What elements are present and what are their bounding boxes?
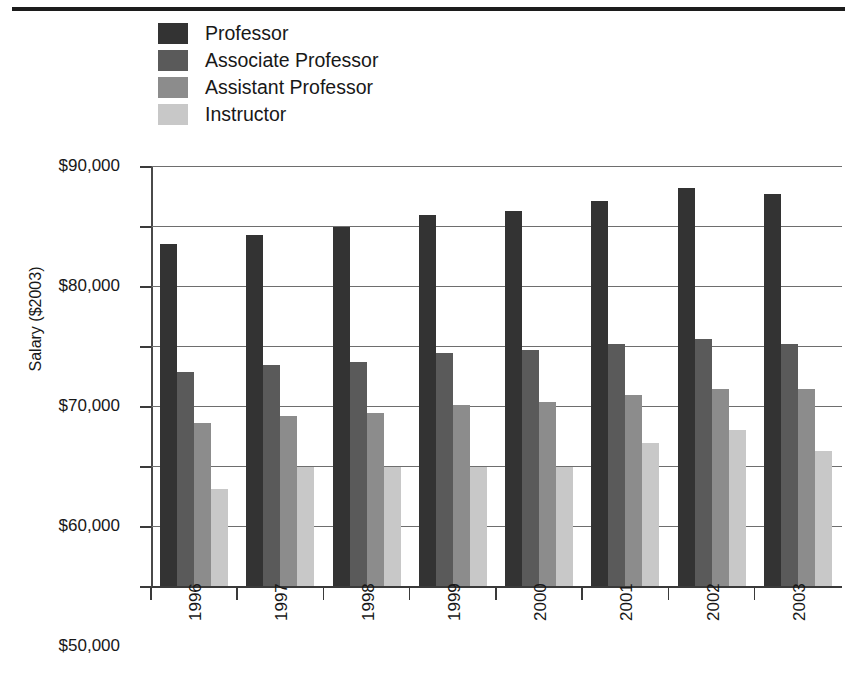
- y-axis-tick-label: $50,000: [59, 636, 120, 656]
- x-axis-tick-label: 2003: [790, 583, 810, 621]
- bar: [350, 362, 367, 586]
- bar: [608, 344, 625, 586]
- legend-swatch-icon: [158, 104, 188, 125]
- y-axis-tick-label: $60,000: [59, 516, 120, 536]
- legend-item-label: Professor: [205, 24, 288, 44]
- legend-item-label: Instructor: [205, 105, 286, 125]
- legend-item: Professor: [158, 20, 578, 47]
- x-axis-tick-mark: [668, 587, 670, 600]
- bar: [177, 372, 194, 586]
- bar: [815, 451, 832, 586]
- x-axis-tick-label: 1999: [445, 583, 465, 621]
- x-axis-tick-label: 2002: [704, 583, 724, 621]
- bar: [505, 211, 522, 586]
- legend-item: Instructor: [158, 101, 578, 128]
- bar: [211, 489, 228, 586]
- legend-swatch-icon: [158, 77, 188, 98]
- x-axis-tick-mark: [409, 587, 411, 600]
- top-divider-rule: [12, 7, 845, 11]
- x-axis-tick-label: 2000: [531, 583, 551, 621]
- bar: [436, 353, 453, 586]
- bar: [556, 467, 573, 586]
- legend-item: Assistant Professor: [158, 74, 578, 101]
- legend-item-label: Assistant Professor: [205, 78, 373, 98]
- x-axis-tick-mark: [495, 587, 497, 600]
- y-axis-tick-mark: $70,000: [140, 286, 151, 288]
- bar: [539, 402, 556, 586]
- bars-group: [152, 166, 842, 586]
- bar: [194, 423, 211, 586]
- bar: [160, 244, 177, 586]
- bar: [591, 201, 608, 586]
- chart-figure: ProfessorAssociate ProfessorAssistant Pr…: [0, 0, 852, 673]
- y-axis-tick-mark: $30,000: [140, 526, 151, 528]
- bar: [798, 389, 815, 586]
- x-axis-tick-mark: [581, 587, 583, 600]
- x-axis-line: [152, 586, 842, 588]
- bar: [695, 339, 712, 586]
- y-axis-tick-mark: $60,000: [140, 346, 151, 348]
- y-axis-tick-mark: $80,000: [140, 226, 151, 228]
- legend-swatch-icon: [158, 23, 188, 44]
- bar: [729, 430, 746, 586]
- bar: [781, 344, 798, 586]
- x-axis-tick-label: 1996: [186, 583, 206, 621]
- bar: [764, 194, 781, 586]
- x-axis-tick-label: 2001: [617, 583, 637, 621]
- legend-item: Associate Professor: [158, 47, 578, 74]
- bar: [522, 350, 539, 586]
- bar: [333, 227, 350, 586]
- y-axis-tick-label: $70,000: [59, 396, 120, 416]
- legend-swatch-icon: [158, 50, 188, 71]
- x-axis-tick-label: 1997: [272, 583, 292, 621]
- bar: [642, 443, 659, 586]
- bar: [453, 405, 470, 586]
- y-axis-tick-label: $80,000: [59, 276, 120, 296]
- legend-item-label: Associate Professor: [205, 51, 378, 71]
- bar: [246, 235, 263, 586]
- y-axis-tick-mark: $50,000: [140, 406, 151, 408]
- bar: [419, 215, 436, 586]
- y-axis-tick-label: $90,000: [59, 156, 120, 176]
- y-axis-tick-mark: $90,000: [140, 166, 151, 168]
- bar: [297, 467, 314, 586]
- bar: [384, 467, 401, 586]
- x-axis-tick-mark: [236, 587, 238, 600]
- bar: [625, 395, 642, 586]
- x-axis-tick-mark: [150, 587, 152, 600]
- y-axis-tick-mark: $40,000: [140, 466, 151, 468]
- bar: [678, 188, 695, 586]
- y-axis-title: Salary ($2003): [27, 219, 45, 419]
- bar: [712, 389, 729, 586]
- bar: [280, 416, 297, 586]
- plot-area: $90,000$80,000$70,000$60,000$50,000$40,0…: [152, 166, 842, 586]
- chart-legend: ProfessorAssociate ProfessorAssistant Pr…: [158, 20, 578, 128]
- bar: [367, 413, 384, 586]
- x-axis-tick-mark: [754, 587, 756, 600]
- x-axis-tick-label: 1998: [359, 583, 379, 621]
- bar: [470, 467, 487, 586]
- x-axis-tick-mark: [323, 587, 325, 600]
- bar: [263, 365, 280, 586]
